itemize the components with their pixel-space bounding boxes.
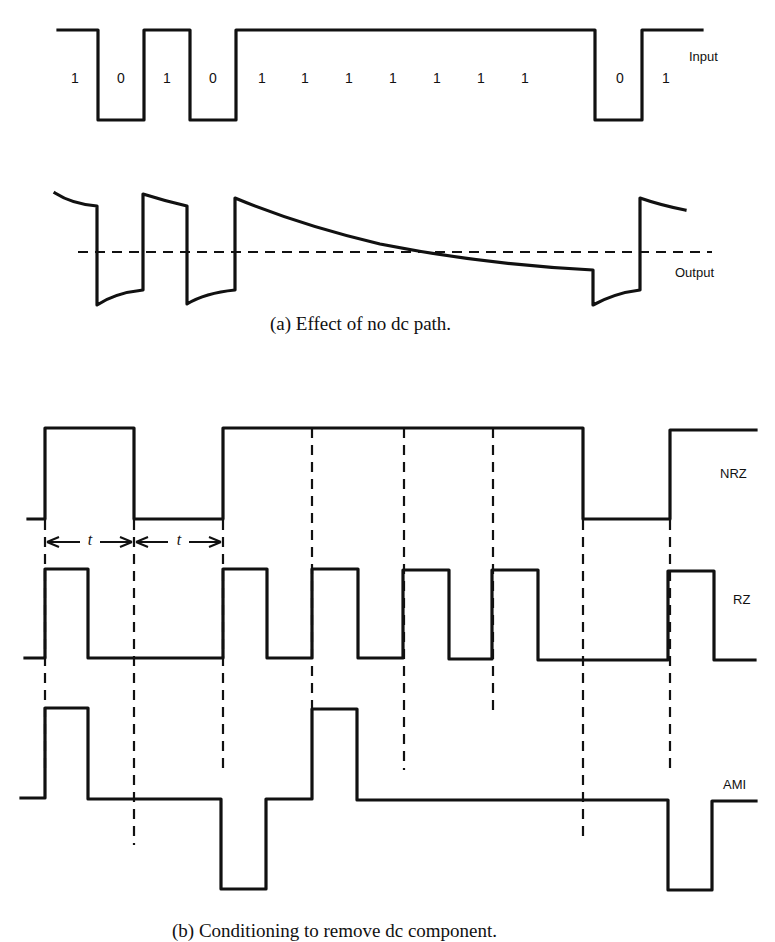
bit-label: 1: [71, 70, 79, 86]
rz-label: RZ: [733, 592, 750, 607]
input-waveform: [58, 30, 702, 120]
bit-label: 1: [477, 70, 485, 86]
caption-b: (b) Conditioning to remove dc component.: [172, 920, 497, 942]
bit-label: 0: [209, 70, 217, 86]
bit-label: 1: [389, 70, 397, 86]
bit-period-label: t: [177, 531, 181, 549]
input-label: Input: [689, 49, 718, 64]
bit-label: 1: [301, 70, 309, 86]
bit-label: 1: [433, 70, 441, 86]
bit-label: 0: [616, 70, 624, 86]
bit-period-label: t: [88, 531, 92, 549]
output-waveform: [55, 193, 685, 305]
bit-label: 1: [163, 70, 171, 86]
bit-label: 1: [345, 70, 353, 86]
bit-label: 1: [662, 70, 670, 86]
nrz-label: NRZ: [720, 466, 747, 481]
ami-label: AMI: [723, 777, 746, 792]
bit-label: 1: [521, 70, 529, 86]
nrz-waveform: [28, 428, 756, 519]
caption-a: (a) Effect of no dc path.: [270, 313, 451, 335]
ami-waveform: [21, 708, 756, 890]
output-label: Output: [675, 265, 714, 280]
bit-label: 1: [258, 70, 266, 86]
bit-label: 0: [117, 70, 125, 86]
